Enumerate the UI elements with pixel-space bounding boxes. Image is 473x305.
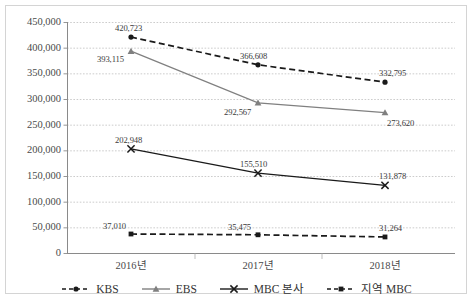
data-point-marker [128, 48, 135, 54]
legend-item-2[interactable]: EBS [141, 283, 197, 295]
y-axis-tick-label: 0 [56, 247, 61, 258]
data-label: 31,264 [379, 224, 402, 233]
data-point-marker [382, 80, 387, 85]
x-axis-tick-label: 2016년 [91, 260, 171, 271]
legend-label: 지역 MBC [361, 283, 411, 295]
data-point-marker [128, 34, 133, 39]
legend-label: KBS [96, 283, 118, 295]
data-label: 202,948 [115, 136, 142, 145]
data-label: 273,620 [387, 119, 414, 128]
legend-item-4[interactable]: 지역 MBC [326, 283, 411, 295]
y-axis-tick-label: 400,000 [27, 42, 61, 53]
legend-item-3[interactable]: MBC 본사 [219, 283, 304, 295]
x-axis-tick-label: 2018년 [345, 260, 425, 271]
data-point-marker [129, 232, 134, 237]
y-axis-tick-label: 100,000 [27, 196, 61, 207]
data-label: 420,723 [115, 24, 142, 33]
data-label: 35,475 [228, 223, 251, 232]
x-axis-tick-label: 2017년 [218, 260, 298, 271]
series-layer [127, 34, 388, 239]
y-axis-tick-label: 50,000 [32, 221, 61, 232]
data-label: 332,795 [379, 69, 406, 78]
chart-legend: KBSEBSMBC 본사지역 MBC [0, 279, 473, 299]
y-axis-tick-label: 200,000 [27, 144, 61, 155]
legend-marker-x-icon [219, 283, 249, 295]
legend-item-1[interactable]: KBS [61, 283, 118, 295]
data-label: 37,010 [103, 222, 126, 231]
data-label: 155,510 [240, 160, 267, 169]
data-point-marker [74, 286, 79, 291]
y-axis-tick-label: 250,000 [27, 119, 61, 130]
data-label: 393,115 [97, 55, 124, 64]
legend-label: EBS [176, 283, 197, 295]
y-axis-tick-label: 150,000 [27, 170, 61, 181]
legend-marker-circle-icon [61, 283, 91, 295]
legend-marker-square-icon [326, 283, 356, 295]
data-point-marker [255, 62, 260, 67]
data-point-marker [256, 232, 261, 237]
legend-label: MBC 본사 [254, 283, 304, 295]
y-axis-tick-label: 350,000 [27, 67, 61, 78]
data-label: 292,567 [224, 108, 251, 117]
legend-marker-triangle-icon [141, 283, 171, 295]
line-chart: 050,000100,000150,000200,000250,000300,0… [0, 0, 473, 305]
data-point-marker [383, 235, 388, 240]
data-label: 131,878 [379, 172, 406, 181]
data-point-marker [339, 287, 344, 292]
y-axis-tick-label: 300,000 [27, 93, 61, 104]
data-label: 366,608 [240, 52, 267, 61]
y-axis-tick-label: 450,000 [27, 16, 61, 27]
series-4 [129, 232, 388, 240]
